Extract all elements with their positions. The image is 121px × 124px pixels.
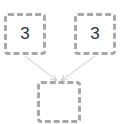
node-left-label: 3 [20,24,29,44]
edge-left-to-bottom [25,56,56,80]
node-right[interactable]: 3 [74,13,116,55]
node-left[interactable]: 3 [4,13,46,55]
edge-right-to-bottom [62,56,95,80]
node-right-label: 3 [90,24,99,44]
node-bottom[interactable] [37,81,81,123]
